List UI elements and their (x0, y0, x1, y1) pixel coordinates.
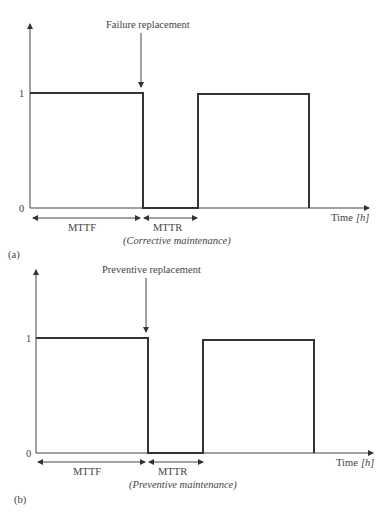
diagram-canvas: 1 0 Failure replacement MTTF MTTR (Corre… (0, 0, 392, 516)
panel-b: 1 0 Preventive replacement MTTF MTTR (Pr… (14, 264, 374, 506)
panel-label-a: (a) (8, 249, 20, 261)
ytick-1: 1 (19, 88, 24, 99)
x-axis-unit: [h] (356, 212, 369, 223)
x-axis-label: Time (336, 457, 358, 468)
x-axis-unit: [h] (361, 457, 374, 468)
mttr-label: MTTR (158, 466, 187, 477)
panel-label-b: (b) (14, 494, 27, 506)
ytick-1: 1 (26, 333, 31, 344)
x-axis-label: Time (331, 212, 353, 223)
state-step-line (30, 93, 309, 208)
mttr-sublabel: (Corrective maintenance) (123, 235, 231, 247)
mttf-label: MTTF (73, 466, 101, 477)
ytick-0: 0 (26, 448, 31, 459)
annotation-preventive-replacement: Preventive replacement (102, 264, 201, 275)
mttf-label: MTTF (68, 222, 96, 233)
mttr-label: MTTR (153, 222, 182, 233)
state-step-line (36, 338, 314, 453)
annotation-failure-replacement: Failure replacement (106, 19, 190, 30)
mttr-sublabel: (Preventive maintenance) (129, 479, 237, 491)
panel-a: 1 0 Failure replacement MTTF MTTR (Corre… (8, 19, 369, 261)
ytick-0: 0 (19, 203, 24, 214)
